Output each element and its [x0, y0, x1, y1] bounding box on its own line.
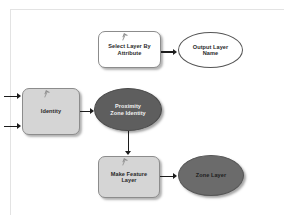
node-label-proximity-zone-identity: Proximity Zone Identity: [110, 103, 145, 116]
connector-line: [4, 126, 18, 127]
model-diagram-canvas: Select Layer By Attribute Output Layer N…: [0, 0, 291, 222]
connector-line: [4, 96, 18, 97]
node-label-identity: Identity: [41, 108, 61, 114]
arrowhead-right-icon: [17, 123, 21, 129]
arrowhead-down-icon: [125, 151, 131, 155]
arrowhead-right-icon: [173, 173, 177, 179]
node-identity[interactable]: Identity: [22, 88, 80, 135]
connector-input-bottom-to-identity: [4, 123, 23, 130]
tool-pointer-icon: [123, 159, 131, 167]
node-output-layer-name[interactable]: Output Layer Name: [178, 32, 243, 68]
connector-identity-to-proximity: [80, 108, 95, 115]
node-label-output-layer-name: Output Layer Name: [193, 44, 228, 57]
connector-make-feature-to-zone: [160, 173, 178, 180]
tool-pointer-icon: [123, 34, 131, 42]
node-zone-layer[interactable]: Zone Layer: [178, 155, 244, 196]
node-label-zone-layer: Zone Layer: [196, 172, 226, 178]
connector-line: [128, 131, 129, 152]
connector-line: [160, 176, 174, 177]
node-select-layer-by-attribute[interactable]: Select Layer By Attribute: [98, 31, 161, 68]
arrowhead-right-icon: [173, 49, 177, 55]
connector-proximity-to-make-feature: [125, 131, 132, 156]
page-frame-top-border: [10, 9, 284, 10]
page-frame-left-border: [10, 9, 11, 215]
node-proximity-zone-identity[interactable]: Proximity Zone Identity: [94, 88, 162, 131]
node-label-select-layer-by-attribute: Select Layer By Attribute: [108, 43, 150, 56]
node-make-feature-layer[interactable]: Make Feature Layer: [98, 156, 160, 198]
connector-input-top-to-identity: [4, 93, 23, 100]
node-label-make-feature-layer: Make Feature Layer: [111, 171, 147, 184]
tool-pointer-icon: [45, 91, 53, 99]
arrowhead-right-icon: [17, 93, 21, 99]
connector-select-to-output: [161, 49, 178, 56]
